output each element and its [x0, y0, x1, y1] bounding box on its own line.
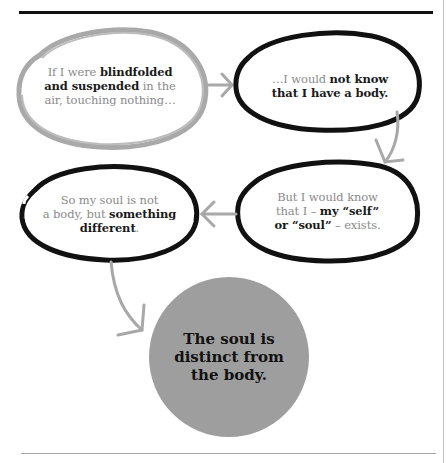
- premise-3-text-part: But I would know: [277, 190, 378, 204]
- arrow-right-icon: [209, 74, 232, 96]
- premise-3-bold-part: my “self”: [320, 204, 379, 218]
- premise-3-text-part: that I –: [276, 204, 320, 218]
- premise-1-text: If I were blindfolded and suspended in t…: [35, 65, 185, 107]
- arrow-curved-down-right-icon: [111, 262, 144, 335]
- conclusion-text: The soul is distinct from the body.: [159, 330, 299, 384]
- premise-1-bold-part: blindfolded: [100, 65, 172, 79]
- arrow-left-icon: [202, 202, 236, 226]
- conclusion-line: the body.: [191, 366, 267, 384]
- premise-3-text: But I would know that I – my “self” or “…: [250, 190, 405, 232]
- premise-1-bold-part: and suspended: [44, 79, 139, 93]
- premise-2-bold-part: not know: [330, 72, 388, 86]
- premise-3-text-part: – exists.: [331, 218, 380, 232]
- diagram-page: If I were blindfolded and suspended in t…: [0, 0, 448, 463]
- premise-1-text-part: in the: [139, 79, 176, 93]
- premise-1-text-part: If I were: [48, 65, 100, 79]
- premise-1-text-part: air, touching nothing…: [44, 93, 175, 107]
- premise-4-text-part: .: [136, 221, 140, 235]
- premise-4-text-part: So my soul is not: [61, 193, 159, 207]
- premise-2-text-part: …I would: [272, 72, 330, 86]
- premise-4-bold-part: different: [80, 221, 136, 235]
- premise-2-text: …I would not know that I have a body.: [255, 72, 405, 100]
- conclusion-line: The soul is: [183, 330, 274, 348]
- premise-4-bold-part: something: [109, 207, 176, 221]
- premise-4-text-part: a body, but: [43, 207, 109, 221]
- conclusion-line: distinct from: [174, 348, 284, 366]
- premise-3-bold-part: or “soul”: [274, 218, 331, 232]
- premise-2-bold-part: that I have a body.: [272, 86, 388, 100]
- premise-4-text: So my soul is not a body, but something …: [32, 193, 187, 235]
